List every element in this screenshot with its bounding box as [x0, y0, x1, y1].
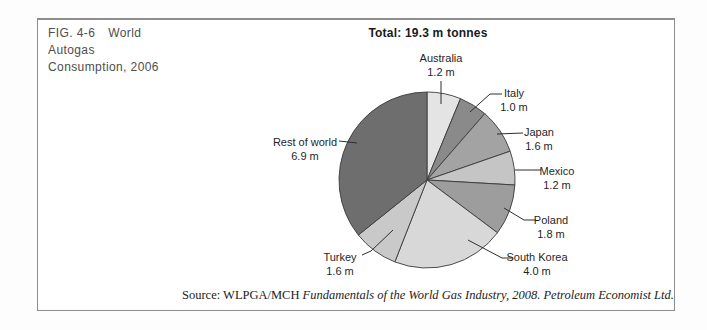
slice-label-rest-of-world: Rest of world6.9 m — [273, 136, 337, 162]
slice-value-australia: 1.2 m — [427, 66, 455, 78]
source-citation: Fundamentals of the World Gas Industry, … — [303, 288, 674, 302]
slice-label-turkey: Turkey1.6 m — [323, 251, 357, 277]
slice-name-australia: Australia — [420, 52, 464, 64]
slice-name-rest-of-world: Rest of world — [273, 136, 337, 148]
slice-name-mexico: Mexico — [540, 165, 575, 177]
slice-name-japan: Japan — [524, 126, 554, 138]
slice-label-japan: Japan1.6 m — [524, 126, 554, 152]
slice-value-south-korea: 4.0 m — [523, 265, 551, 277]
source-prefix: Source: WLPGA/MCH — [182, 288, 303, 302]
slice-label-poland: Poland1.8 m — [534, 214, 568, 240]
slice-value-mexico: 1.2 m — [543, 179, 571, 191]
slice-name-poland: Poland — [534, 214, 568, 226]
slice-name-italy: Italy — [504, 87, 525, 99]
slice-label-mexico: Mexico1.2 m — [540, 165, 575, 191]
slice-label-south-korea: South Korea4.0 m — [506, 251, 568, 277]
slice-value-poland: 1.8 m — [537, 228, 565, 240]
slice-label-italy: Italy1.0 m — [500, 87, 528, 113]
slice-value-italy: 1.0 m — [500, 101, 528, 113]
slice-value-rest-of-world: 6.9 m — [291, 150, 319, 162]
slice-name-turkey: Turkey — [323, 251, 357, 263]
slice-value-japan: 1.6 m — [525, 140, 553, 152]
slice-value-turkey: 1.6 m — [326, 265, 354, 277]
page: FIG. 4-6World Autogas Consumption, 2006 … — [0, 0, 707, 330]
pie-chart-svg: Australia1.2 mItaly1.0 mJapan1.6 mMexico… — [0, 0, 707, 330]
slice-label-australia: Australia1.2 m — [420, 52, 464, 78]
source-line: Source: WLPGA/MCH Fundamentals of the Wo… — [182, 288, 674, 303]
slice-name-south-korea: South Korea — [506, 251, 568, 263]
